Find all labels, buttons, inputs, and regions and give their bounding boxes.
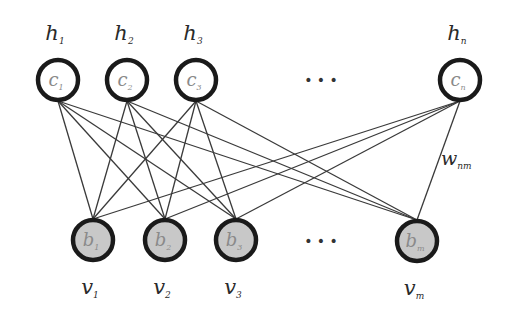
node-h3: c3h3 bbox=[176, 21, 216, 100]
unit-label-v3: v3 bbox=[224, 275, 242, 300]
node-v2: b2v2 bbox=[145, 220, 185, 300]
unit-label-v1: v1 bbox=[81, 275, 99, 300]
weight-label: wnm bbox=[441, 147, 472, 171]
rbm-diagram: c1h1c2h2c3h3cnhn b1v1b2v2b3v3bmvm • • • … bbox=[0, 0, 510, 312]
node-vm: bmvm bbox=[397, 221, 437, 301]
weight-edge-h2-vm bbox=[127, 101, 417, 220]
weight-edge-h1-v1 bbox=[58, 101, 93, 219]
weight-edge-h2-v3 bbox=[127, 101, 236, 219]
weight-edge-h3-vm bbox=[196, 101, 417, 220]
node-circle-vm bbox=[397, 221, 437, 261]
node-v3: b3v3 bbox=[216, 220, 256, 300]
unit-label-h3: h3 bbox=[183, 21, 203, 46]
node-v1: b1v1 bbox=[73, 220, 113, 300]
hidden-layer: c1h1c2h2c3h3cnhn bbox=[38, 21, 480, 100]
unit-label-h1: h1 bbox=[45, 21, 64, 46]
hidden-ellipsis: • • • bbox=[304, 72, 338, 88]
unit-label-v2: v2 bbox=[153, 275, 171, 300]
weight-edge-hn-v2 bbox=[165, 101, 460, 219]
visible-ellipsis: • • • bbox=[304, 233, 338, 249]
visible-layer: b1v1b2v2b3v3bmvm bbox=[73, 220, 437, 301]
unit-label-h2: h2 bbox=[114, 21, 134, 46]
weight-edges bbox=[58, 101, 460, 220]
node-h2: c2h2 bbox=[107, 21, 147, 100]
unit-label-hn: hn bbox=[447, 21, 467, 46]
unit-label-vm: vm bbox=[404, 276, 424, 301]
node-hn: cnhn bbox=[440, 21, 480, 100]
node-h1: c1h1 bbox=[38, 21, 78, 100]
